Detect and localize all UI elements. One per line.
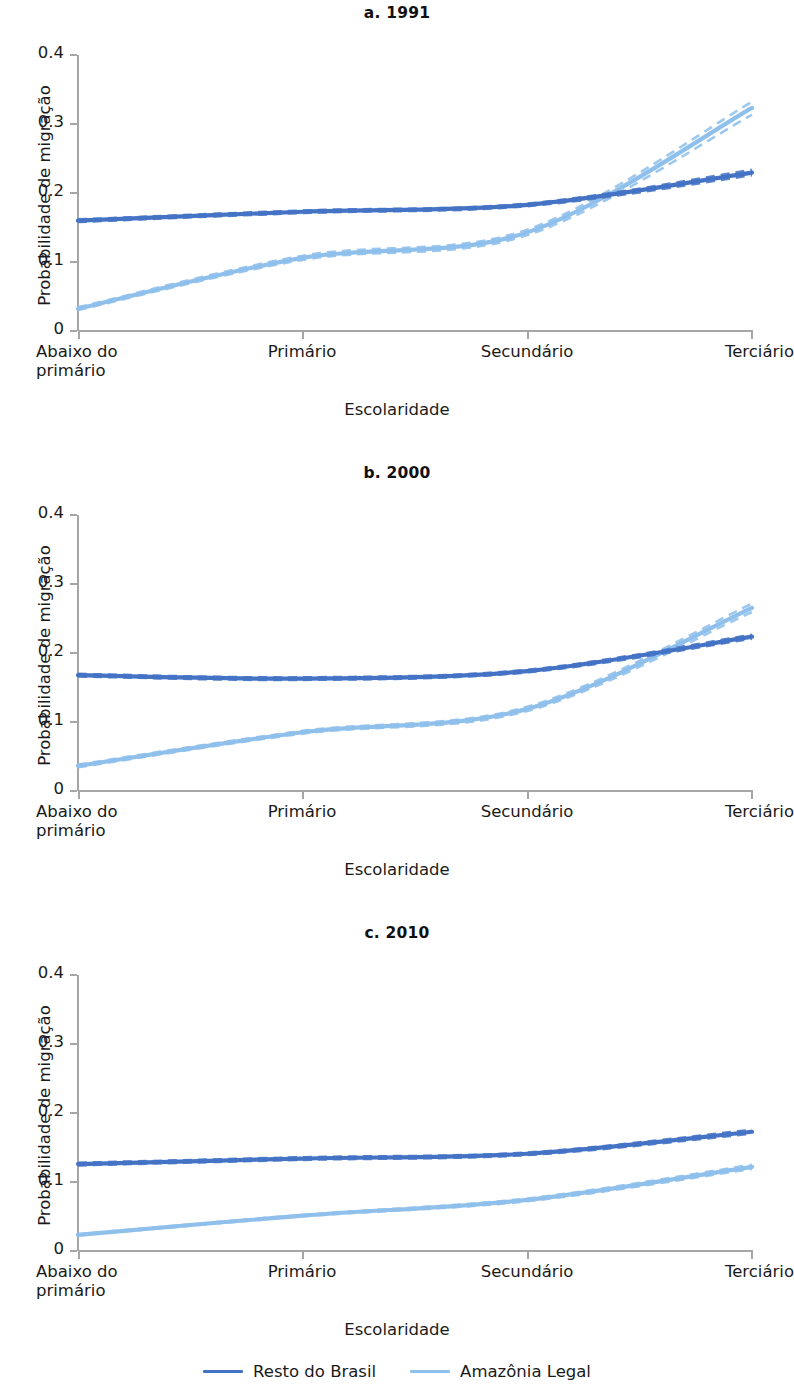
y-tick-mark-b-0 (70, 514, 77, 516)
y-tick-label-b-2: 0.2 (4, 643, 64, 660)
x-tick-label-c-0: Abaixo do primário (36, 1262, 226, 1301)
x-tick-mark-a-0 (78, 331, 80, 339)
ci-upper-amazonia-a (78, 102, 752, 308)
x-tick-label-b-0-line2: primário (36, 821, 226, 840)
panel-title-c: c. 2010 (0, 924, 794, 942)
y-tick-mark-a-0 (70, 54, 77, 56)
legend-label-amazonia-legal: Amazônia Legal (460, 1362, 591, 1381)
x-tick-label-b-1: Primário (207, 802, 397, 821)
x-axis-label-c: Escolaridade (0, 1320, 794, 1339)
x-tick-label-b-0-line1: Abaixo do (36, 802, 226, 821)
x-tick-label-c-3: Terciário (604, 1262, 794, 1281)
x-tick-mark-b-0 (78, 791, 80, 799)
y-tick-mark-c-4 (70, 1250, 77, 1252)
y-tick-label-a-4: 0 (4, 321, 64, 338)
plot-svg-b (78, 515, 752, 790)
y-tick-label-a-2: 0.2 (4, 183, 64, 200)
y-tick-label-c-4: 0 (4, 1241, 64, 1258)
x-tick-label-b-2: Secundário (432, 802, 622, 821)
plot-area-c (78, 975, 752, 1250)
x-tick-label-c-0-line2: primário (36, 1281, 226, 1300)
series-amazonia-legal-a (78, 102, 752, 310)
x-axis-line-c (78, 1250, 753, 1252)
x-tick-label-c-1: Primário (207, 1262, 397, 1281)
ci-lower-amazonia-b (78, 612, 752, 767)
x-tick-label-a-0-line1: Abaixo do (36, 342, 226, 361)
x-tick-label-a-1: Primário (207, 342, 397, 361)
x-tick-mark-b-2 (527, 791, 529, 799)
x-tick-mark-a-2 (527, 331, 529, 339)
chart-panel-a: a. 1991 Probabilidade de migração 0.4 0.… (0, 0, 794, 455)
x-tick-mark-b-1 (302, 791, 304, 799)
y-tick-label-b-0: 0.4 (4, 505, 64, 522)
y-tick-label-c-1: 0.3 (4, 1034, 64, 1051)
y-tick-mark-c-2 (70, 1112, 77, 1114)
legend-item-resto-do-brasil[interactable]: Resto do Brasil (203, 1362, 376, 1381)
x-tick-mark-c-3 (751, 1251, 753, 1259)
x-tick-label-a-3: Terciário (604, 342, 794, 361)
y-tick-label-b-4: 0 (4, 781, 64, 798)
series-resto-do-brasil-a (78, 170, 752, 222)
x-tick-label-a-0: Abaixo do primário (36, 342, 226, 381)
y-tick-mark-b-3 (70, 721, 77, 723)
ci-lower-amazonia-a (78, 115, 752, 310)
x-tick-label-b-0: Abaixo do primário (36, 802, 226, 841)
x-tick-label-c-2: Secundário (432, 1262, 622, 1281)
x-tick-mark-c-0 (78, 1251, 80, 1259)
x-tick-mark-c-1 (302, 1251, 304, 1259)
y-tick-mark-c-0 (70, 974, 77, 976)
figure-migration-probability-by-education: a. 1991 Probabilidade de migração 0.4 0.… (0, 0, 794, 1396)
plot-area-a (78, 55, 752, 330)
y-tick-label-a-3: 0.1 (4, 252, 64, 269)
x-axis-line-a (78, 330, 753, 332)
line-amazonia-legal-b (78, 608, 752, 766)
x-tick-mark-a-1 (302, 331, 304, 339)
y-tick-label-a-0: 0.4 (4, 45, 64, 62)
plot-area-b (78, 515, 752, 790)
y-tick-mark-c-1 (70, 1043, 77, 1045)
plot-svg-a (78, 55, 752, 330)
y-tick-label-c-0: 0.4 (4, 965, 64, 982)
legend-line-swatch-amazonia-legal (410, 1370, 450, 1373)
y-tick-label-a-1: 0.3 (4, 114, 64, 131)
x-tick-label-a-0-line2: primário (36, 361, 226, 380)
x-tick-mark-b-3 (751, 791, 753, 799)
legend-item-amazonia-legal[interactable]: Amazônia Legal (410, 1362, 591, 1381)
chart-legend: Resto do Brasil Amazônia Legal (0, 1362, 794, 1381)
x-tick-label-a-2: Secundário (432, 342, 622, 361)
x-tick-mark-a-3 (751, 331, 753, 339)
y-tick-mark-b-2 (70, 652, 77, 654)
y-tick-mark-a-2 (70, 192, 77, 194)
y-tick-mark-c-3 (70, 1181, 77, 1183)
y-tick-mark-b-4 (70, 790, 77, 792)
chart-panel-c: c. 2010 Probabilidade de migração 0.4 0.… (0, 920, 794, 1350)
y-tick-label-c-3: 0.1 (4, 1172, 64, 1189)
x-tick-mark-c-2 (527, 1251, 529, 1259)
y-tick-mark-a-4 (70, 330, 77, 332)
y-tick-mark-a-3 (70, 261, 77, 263)
y-tick-label-c-2: 0.2 (4, 1103, 64, 1120)
ci-upper-amazonia-c (78, 1165, 752, 1234)
legend-line-swatch-resto-do-brasil (203, 1370, 243, 1373)
y-tick-label-b-1: 0.3 (4, 574, 64, 591)
panel-title-b: b. 2000 (0, 464, 794, 482)
line-amazonia-legal-c (78, 1167, 752, 1235)
ci-upper-amazonia-b (78, 604, 752, 765)
plot-svg-c (78, 975, 752, 1250)
series-amazonia-legal-b (78, 604, 752, 768)
line-resto-do-brasil-a (78, 173, 752, 221)
chart-panel-b: b. 2000 Probabilidade de migração 0.4 0.… (0, 460, 794, 915)
x-tick-label-b-3: Terciário (604, 802, 794, 821)
series-resto-do-brasil-c (78, 1130, 752, 1166)
x-axis-line-b (78, 790, 753, 792)
y-tick-label-b-3: 0.1 (4, 712, 64, 729)
y-tick-mark-b-1 (70, 583, 77, 585)
x-axis-label-b: Escolaridade (0, 860, 794, 879)
panel-title-a: a. 1991 (0, 4, 794, 22)
y-tick-mark-a-1 (70, 123, 77, 125)
line-resto-do-brasil-c (78, 1132, 752, 1164)
x-tick-label-c-0-line1: Abaixo do (36, 1262, 226, 1281)
x-axis-label-a: Escolaridade (0, 400, 794, 419)
series-amazonia-legal-c (78, 1165, 752, 1236)
legend-label-resto-do-brasil: Resto do Brasil (253, 1362, 376, 1381)
